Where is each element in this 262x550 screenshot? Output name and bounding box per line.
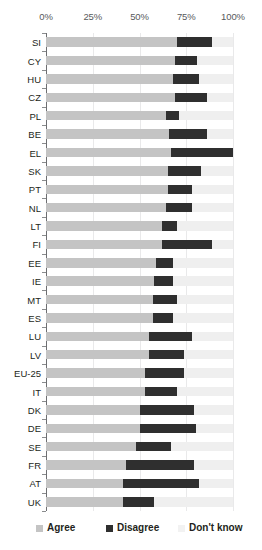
category-label: LT xyxy=(31,221,41,232)
segment-disagree xyxy=(166,203,192,213)
category-label: NL xyxy=(29,202,41,213)
segment-agree xyxy=(46,203,166,213)
bar-row: NL xyxy=(46,203,233,213)
segment-disagree xyxy=(126,460,193,470)
legend-item: Disagree xyxy=(106,521,159,535)
category-label: BE xyxy=(28,129,41,140)
segment-disagree xyxy=(140,424,196,434)
axis-tickmark xyxy=(42,364,46,365)
category-label: CY xyxy=(28,55,41,66)
axis-tickmark xyxy=(42,107,46,108)
segment-agree xyxy=(46,368,145,378)
segment-agree xyxy=(46,332,149,342)
category-label: UK xyxy=(28,496,41,507)
segment-disagree xyxy=(175,93,207,103)
axis-tickmark xyxy=(42,162,46,163)
segment-agree xyxy=(46,479,123,489)
segment-disagree xyxy=(123,479,200,489)
segment-disagree xyxy=(177,37,213,47)
legend-swatch-icon xyxy=(106,525,113,532)
category-label: IT xyxy=(33,386,41,397)
segment-agree xyxy=(46,442,136,452)
segment-agree xyxy=(46,129,169,139)
segment-agree xyxy=(46,295,153,305)
bar-row: FI xyxy=(46,240,233,250)
axis-tickmark xyxy=(42,456,46,457)
bar-row: HU xyxy=(46,74,233,84)
segment-disagree xyxy=(149,332,192,342)
segment-agree xyxy=(46,350,149,360)
legend-item: Don't know xyxy=(178,521,242,535)
category-label: FR xyxy=(28,460,41,471)
segment-agree xyxy=(46,185,168,195)
x-axis-tick-labels: 0%25%50%75%100% xyxy=(0,11,262,27)
axis-tickmark xyxy=(42,217,46,218)
bar-row: EE xyxy=(46,258,233,268)
x-tick-label: 0% xyxy=(39,11,53,23)
segment-agree xyxy=(46,166,168,176)
axis-tickmark xyxy=(42,33,46,34)
bar-row: PL xyxy=(46,111,233,121)
axis-tickmark xyxy=(42,198,46,199)
bar-row: PT xyxy=(46,185,233,195)
axis-tickmark xyxy=(42,511,46,512)
gridline xyxy=(140,33,141,511)
axis-tickmark xyxy=(42,309,46,310)
x-tick-label: 25% xyxy=(83,11,102,23)
axis-tickmark xyxy=(42,180,46,181)
segment-disagree xyxy=(136,442,172,452)
bar-row: IE xyxy=(46,276,233,286)
segment-disagree xyxy=(154,276,173,286)
category-label: AT xyxy=(30,478,41,489)
segment-disagree xyxy=(173,74,199,84)
legend-swatch-icon xyxy=(178,525,185,532)
gridline xyxy=(233,33,234,511)
segment-disagree xyxy=(156,258,173,268)
axis-tickmark xyxy=(42,70,46,71)
axis-tickmark xyxy=(42,143,46,144)
legend-label: Agree xyxy=(47,522,75,534)
axis-tickmark xyxy=(42,419,46,420)
segment-disagree xyxy=(149,350,185,360)
axis-tickmark xyxy=(42,290,46,291)
segment-disagree xyxy=(153,313,174,323)
segment-agree xyxy=(46,56,175,66)
axis-tickmark xyxy=(42,125,46,126)
segment-agree xyxy=(46,111,166,121)
gridline xyxy=(93,33,94,511)
category-label: ES xyxy=(28,312,41,323)
segment-agree xyxy=(46,93,175,103)
bar-row: SK xyxy=(46,166,233,176)
segment-disagree xyxy=(145,387,177,397)
category-label: DK xyxy=(28,404,41,415)
category-label: SI xyxy=(32,37,41,48)
bar-row: MT xyxy=(46,295,233,305)
bar-row: LV xyxy=(46,350,233,360)
axis-tickmark xyxy=(42,346,46,347)
segment-agree xyxy=(46,37,177,47)
segment-agree xyxy=(46,497,123,507)
axis-tickmark xyxy=(42,437,46,438)
plot-area: SICYHUCZPLBEELSKPTNLLTFIEEIEMTESLULVEU-2… xyxy=(46,33,233,511)
bar-row: SE xyxy=(46,442,233,452)
legend-label: Don't know xyxy=(189,522,242,534)
x-tick-label: 50% xyxy=(130,11,149,23)
category-label: HU xyxy=(27,73,41,84)
category-label: PT xyxy=(29,184,41,195)
segment-agree xyxy=(46,405,140,415)
axis-tickmark xyxy=(42,272,46,273)
segment-disagree xyxy=(175,56,197,66)
segment-disagree xyxy=(153,295,177,305)
bar-row: ES xyxy=(46,313,233,323)
segment-agree xyxy=(46,240,162,250)
bar-row: UK xyxy=(46,497,233,507)
segment-agree xyxy=(46,74,173,84)
axis-tickmark xyxy=(42,254,46,255)
bar-row: LT xyxy=(46,221,233,231)
category-label: MT xyxy=(27,294,41,305)
segment-disagree xyxy=(171,148,233,158)
stacked-bar-chart: 0%25%50%75%100% SICYHUCZPLBEELSKPTNLLTFI… xyxy=(0,0,262,550)
bar-row: IT xyxy=(46,387,233,397)
segment-disagree xyxy=(168,166,202,176)
gridline xyxy=(186,33,187,511)
